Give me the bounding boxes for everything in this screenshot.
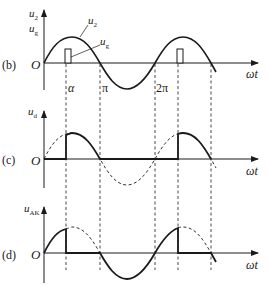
x-label-omega-t: ωt	[246, 67, 258, 81]
origin-label: O	[31, 153, 41, 168]
y-label-ug: ug	[29, 22, 39, 37]
curve-label-u2: u2	[88, 14, 98, 29]
tick-label-pi: π	[102, 81, 108, 95]
tick-label-alpha: α	[68, 81, 75, 95]
panel-label-d: (d)	[2, 248, 16, 262]
panel-label-b: (b)	[2, 58, 16, 72]
ud-output-curve	[44, 133, 211, 159]
rectifier-waveform-diagram: (b) O u2 ug u2 ug α π 2π ωt (c) O ud ωt …	[0, 0, 268, 289]
origin-label: O	[31, 57, 41, 72]
u2-leader	[80, 25, 88, 37]
panel-label-c: (c)	[2, 153, 15, 167]
origin-label: O	[31, 247, 41, 262]
y-label-ud: ud	[28, 105, 38, 120]
u2-reference-dashed	[66, 227, 211, 253]
tick-label-2pi: 2π	[156, 81, 168, 95]
x-label-omega-t: ωt	[246, 258, 258, 272]
panel-d: (d) O uAK ωt	[2, 202, 258, 283]
guide-lines	[66, 64, 211, 270]
x-label-omega-t: ωt	[246, 164, 258, 178]
panel-b: (b) O u2 ug u2 ug α π 2π ωt	[2, 7, 258, 95]
gate-pulse-1	[65, 49, 71, 63]
gate-pulse-2	[177, 49, 183, 63]
y-label-uak: uAK	[24, 202, 40, 217]
y-label-u2: u2	[29, 7, 39, 22]
panel-c: (c) O ud ωt	[2, 105, 258, 188]
curve-label-ug: ug	[100, 35, 110, 50]
